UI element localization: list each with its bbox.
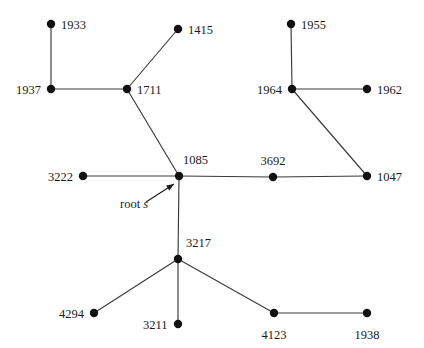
- root-pointer-arrow: [146, 184, 174, 202]
- graph-node-1964[interactable]: [288, 85, 296, 93]
- diagram-canvas: 1933141519551937171119641962322210853692…: [0, 0, 424, 348]
- node-label-1964: 1964: [257, 84, 282, 97]
- root-annotation-variable: s: [143, 197, 148, 211]
- graph-edge: [178, 259, 274, 313]
- graph-node-1955[interactable]: [287, 20, 295, 28]
- graph-node-3211[interactable]: [174, 320, 182, 328]
- graph-edge: [179, 176, 273, 177]
- graph-node-1711[interactable]: [123, 85, 131, 93]
- edges-group: [51, 24, 367, 324]
- graph-node-3222[interactable]: [79, 172, 87, 180]
- node-label-1933: 1933: [61, 19, 86, 32]
- graph-node-1933[interactable]: [47, 20, 55, 28]
- node-label-3217: 3217: [186, 237, 211, 250]
- graph-edge: [178, 176, 179, 259]
- graph-node-1937[interactable]: [47, 85, 55, 93]
- node-label-3222: 3222: [48, 171, 73, 184]
- graph-node-4294[interactable]: [90, 309, 98, 317]
- graph-edge: [273, 176, 367, 177]
- graph-node-1415[interactable]: [174, 25, 182, 33]
- arrow-head: [166, 184, 174, 191]
- node-label-1937: 1937: [16, 84, 41, 97]
- node-label-3211: 3211: [143, 319, 168, 332]
- node-label-4294: 4294: [59, 308, 84, 321]
- graph-node-1085[interactable]: [175, 172, 183, 180]
- graph-node-4123[interactable]: [270, 309, 278, 317]
- root-annotation: root s: [120, 198, 148, 211]
- graph-edge: [127, 29, 178, 89]
- graph-node-1047[interactable]: [363, 172, 371, 180]
- graph-edge: [94, 259, 178, 313]
- nodes-group: [47, 20, 371, 328]
- node-label-4123: 4123: [262, 329, 287, 342]
- graph-edge: [127, 89, 179, 176]
- graph-node-3217[interactable]: [174, 255, 182, 263]
- graph-node-1962[interactable]: [363, 85, 371, 93]
- graph-edge: [291, 24, 292, 89]
- graph-edge: [292, 89, 367, 176]
- node-label-1711: 1711: [137, 84, 162, 97]
- graph-node-1938[interactable]: [363, 309, 371, 317]
- root-annotation-prefix: root: [120, 197, 143, 211]
- graph-node-3692[interactable]: [269, 173, 277, 181]
- node-label-1962: 1962: [377, 84, 402, 97]
- node-label-1955: 1955: [301, 19, 326, 32]
- node-label-1085: 1085: [183, 154, 208, 167]
- node-label-1938: 1938: [355, 329, 380, 342]
- node-label-1047: 1047: [377, 171, 402, 184]
- node-label-1415: 1415: [188, 24, 213, 37]
- node-label-3692: 3692: [261, 155, 286, 168]
